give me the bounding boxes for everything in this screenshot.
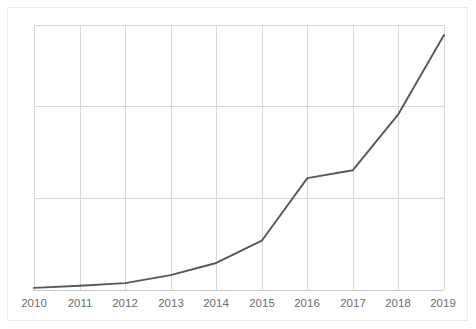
x-tick-label-2010: 2010 — [21, 297, 47, 309]
horizontal-gridlines — [34, 26, 444, 199]
line-chart-figure: 2010 2011 2012 2013 2014 2015 2016 2017 … — [0, 0, 476, 329]
x-tick-label-2015: 2015 — [249, 297, 275, 309]
x-tick-label-2016: 2016 — [294, 297, 320, 309]
vertical-gridlines — [35, 25, 445, 290]
data-line-series-1 — [34, 35, 444, 288]
x-tick-label-2019: 2019 — [430, 297, 456, 309]
x-axis-tick-labels: 2010 2011 2012 2013 2014 2015 2016 2017 … — [21, 297, 456, 309]
x-tick-label-2012: 2012 — [112, 297, 138, 309]
x-tick-label-2014: 2014 — [203, 297, 229, 309]
x-tick-label-2017: 2017 — [340, 297, 366, 309]
x-tick-label-2011: 2011 — [68, 297, 93, 309]
plot-canvas: 2010 2011 2012 2013 2014 2015 2016 2017 … — [0, 0, 476, 329]
x-tick-label-2018: 2018 — [385, 297, 411, 309]
x-tick-label-2013: 2013 — [158, 297, 184, 309]
